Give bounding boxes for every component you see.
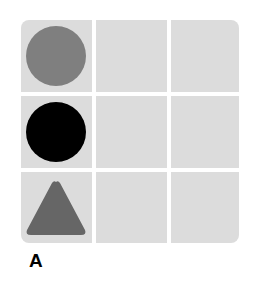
grid-cell-r2c1 [96, 172, 167, 243]
panel-label: A [29, 250, 43, 272]
shape-grid [21, 20, 239, 243]
grid-cell-r1c1 [96, 96, 167, 168]
grid-cell-r1c0 [21, 96, 92, 168]
black-circle-shape [26, 102, 86, 162]
grid-cell-r2c2 [171, 172, 239, 243]
gray-circle-shape [26, 26, 86, 86]
grid-cell-r2c0 [21, 172, 92, 243]
grid-cell-r0c0 [21, 20, 92, 92]
gray-triangle-shape [25, 179, 87, 237]
grid-cell-r0c2 [171, 20, 239, 92]
grid-cell-r1c2 [171, 96, 239, 168]
grid-cell-r0c1 [96, 20, 167, 92]
